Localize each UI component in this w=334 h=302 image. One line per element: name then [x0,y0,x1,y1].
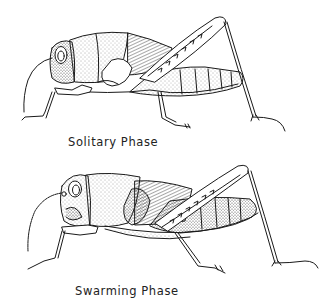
solitary-phase-figure: Solitary Phase [0,0,334,151]
swarming-phase-figure: Swarming Phase [0,151,334,302]
solitary-locust-illustration [0,0,334,151]
swarming-locust-illustration [0,151,334,302]
solitary-phase-caption: Solitary Phase [68,135,158,149]
swarming-phase-caption: Swarming Phase [75,284,179,298]
